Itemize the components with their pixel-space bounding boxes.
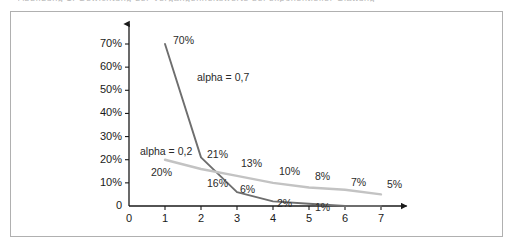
x-tick-label: 2	[186, 213, 216, 224]
data-point-label: 2%	[277, 198, 292, 209]
data-point-label: 70%	[173, 35, 194, 46]
figure-page: Abbildung 1: Gewichtung der Vergangenhei…	[0, 0, 514, 249]
data-point-label: 8%	[315, 171, 330, 182]
figure-border-box: 010%20%30%40%50%60%70%01234567 70%21%6%2…	[10, 11, 503, 237]
y-tick-label: 60%	[11, 61, 122, 72]
data-point-label: 21%	[207, 149, 228, 160]
data-point-label: 7%	[351, 177, 366, 188]
y-tick-label: 20%	[11, 154, 122, 165]
y-tick-label: 30%	[11, 131, 122, 142]
data-point-label: 5%	[387, 179, 402, 190]
chart-series	[165, 44, 381, 206]
data-point-label: 10%	[279, 166, 300, 177]
y-tick-label: 40%	[11, 107, 122, 118]
data-point-label: 6%	[240, 184, 255, 195]
x-tick-label: 3	[222, 213, 252, 224]
y-tick-label: 10%	[11, 177, 122, 188]
x-tick-label: 0	[114, 213, 144, 224]
x-tick-label: 6	[330, 213, 360, 224]
series-annotation: alpha = 0,7	[197, 72, 249, 83]
caption-remnant: Abbildung 1: Gewichtung der Vergangenhei…	[18, 0, 498, 2]
y-tick-label: 0	[11, 200, 122, 211]
y-tick-label: 50%	[11, 84, 122, 95]
x-tick-label: 5	[294, 213, 324, 224]
y-tick-label: 70%	[11, 38, 122, 49]
data-point-label: 16%	[207, 178, 228, 189]
line-chart: 010%20%30%40%50%60%70%01234567 70%21%6%2…	[11, 12, 504, 238]
x-tick-label: 1	[150, 213, 180, 224]
series-line	[165, 160, 381, 195]
data-point-label: 20%	[151, 167, 172, 178]
data-point-label: 1%	[315, 202, 330, 213]
data-point-label: 13%	[241, 158, 262, 169]
x-tick-label: 4	[258, 213, 288, 224]
x-tick-label: 7	[366, 213, 396, 224]
series-annotation: alpha = 0,2	[140, 146, 192, 157]
